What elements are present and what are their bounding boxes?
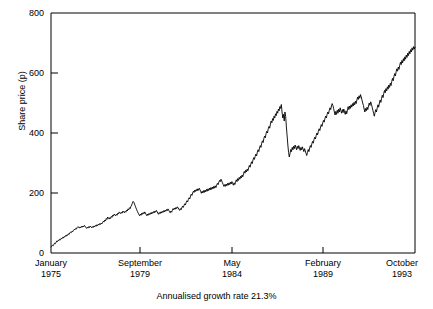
chart-caption: Annualised growth rate 21.3% [0, 291, 433, 301]
x-tick-label-1: September 1979 [100, 258, 180, 280]
share-price-line [51, 47, 415, 247]
share-price-chart: Share price (p) 800 600 400 200 0 Januar… [0, 0, 433, 309]
y-axis-ticks [51, 73, 58, 193]
x-tick-label-3: February 1989 [283, 258, 363, 280]
x-axis-ticks [140, 247, 323, 253]
plot-frame [51, 13, 415, 253]
x-tick-label-0: January 1975 [11, 258, 91, 280]
x-tick-label-4: October 1993 [362, 258, 433, 280]
x-tick-label-2: May 1984 [192, 258, 272, 280]
